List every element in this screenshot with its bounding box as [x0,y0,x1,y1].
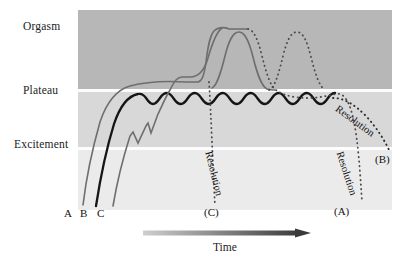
y-label-orgasm: Orgasm [23,20,60,32]
curve-start-label-b: B [80,207,87,219]
time-arrow [143,228,311,239]
x-axis-label: Time [213,241,237,253]
curve-c-third-peak-dotted [269,32,325,90]
curve-c-second-peak [212,32,275,90]
curve-start-label-a: A [64,207,72,219]
curve-a-solid [83,28,248,205]
curve-c-solid [113,28,222,206]
resolution-endpoint-a: (A) [334,205,349,217]
sexual-response-cycle-figure: Orgasm Plateau Excitement [0,0,407,258]
resolution-endpoint-c: (C) [204,206,219,218]
curve-start-label-c: C [97,207,104,219]
y-label-excitement: Excitement [14,138,68,150]
resolution-endpoint-b: (B) [375,153,390,165]
y-label-plateau: Plateau [23,84,58,96]
